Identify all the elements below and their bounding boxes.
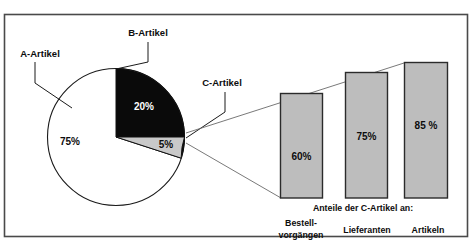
pie-value-b: 20% <box>134 101 154 112</box>
pie-label-b: B-Artikel <box>128 27 168 38</box>
bar-category-0-line2: vorgängen <box>279 230 324 240</box>
pie-label-a: A-Artikel <box>20 48 60 59</box>
pie-value-c: 5% <box>159 139 174 150</box>
abc-analysis-figure: 75% 20% 5% A-Artikel B-Artikel C-Artikel… <box>0 0 475 244</box>
bar-value-2: 85 % <box>415 120 438 131</box>
bar-value-1: 75% <box>356 131 376 142</box>
bar-category-0-line1: Bestell- <box>285 218 317 228</box>
pie-label-c: C-Artikel <box>202 77 242 88</box>
bar-0 <box>281 94 323 199</box>
bar-category-2-line1: Artikeln <box>412 225 445 235</box>
bar-chart-caption: Anteile der C-Artikel an: <box>313 203 413 213</box>
bar-category-1-line1: Lieferanten <box>343 225 390 235</box>
figure-canvas: 75% 20% 5% A-Artikel B-Artikel C-Artikel… <box>0 0 475 244</box>
pie-value-a: 75% <box>60 136 80 147</box>
bar-value-0: 60% <box>291 151 311 162</box>
